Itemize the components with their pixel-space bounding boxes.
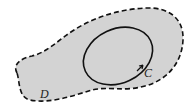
curve-label-c: C [144,66,153,80]
region-diagram: C D [0,0,196,109]
region-label-d: D [39,87,49,101]
